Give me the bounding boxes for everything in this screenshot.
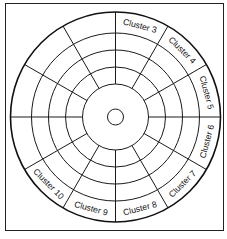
cluster-label: Cluster 10 [31,166,66,201]
sector-spokes [11,12,221,222]
cluster-label: Cluster 7 [167,168,199,200]
cluster-label: Cluster 4 [167,34,199,66]
inner-hub-circle [83,84,149,150]
disk-cluster-diagram: Cluster 3Cluster 4Cluster 5Cluster 6Clus… [0,0,227,239]
spindle-hole [108,109,124,125]
